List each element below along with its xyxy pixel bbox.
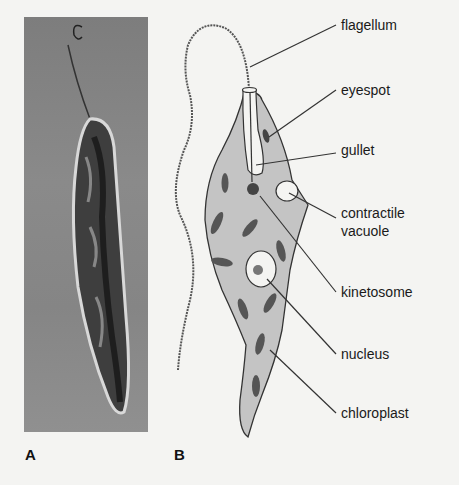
label-contractile: contractile: [341, 205, 405, 221]
label-kinetosome: kinetosome: [341, 284, 413, 300]
label-gullet: gullet: [341, 142, 374, 158]
label-nucleus: nucleus: [341, 346, 389, 362]
kinetosome: [247, 183, 259, 195]
label-eyespot: eyespot: [341, 82, 390, 98]
panel-label-b: B: [174, 446, 185, 463]
label-chloroplast: chloroplast: [341, 405, 409, 421]
contractile-vacuole: [276, 181, 298, 201]
label-vacuole: vacuole: [341, 223, 389, 239]
label-flagellum: flagellum: [341, 17, 397, 33]
